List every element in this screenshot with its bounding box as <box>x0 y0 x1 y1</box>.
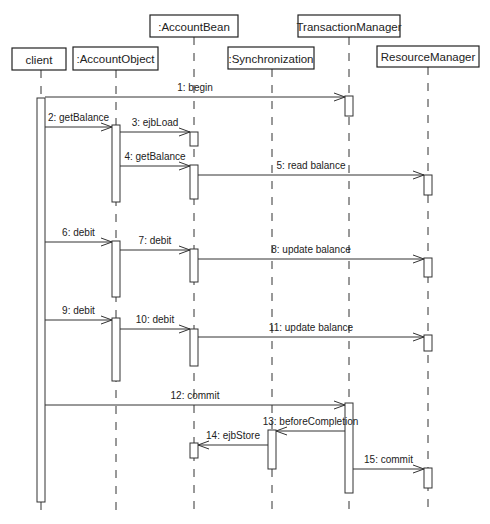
sequence-diagram: client:AccountObject:AccountBean:Synchro… <box>0 0 490 524</box>
message-5: 5: read balance <box>198 160 424 179</box>
message-label: 14: ejbStore <box>206 430 260 441</box>
message-1: 1: begin <box>45 82 345 101</box>
activation-bars <box>37 96 432 502</box>
message-label: 10: debit <box>136 314 175 325</box>
message-11: 11: update balance <box>198 322 424 341</box>
message-6: 6: debit <box>45 227 112 246</box>
participant-label: :AccountBean <box>158 21 230 33</box>
activation-bar-synchronization <box>268 430 276 469</box>
message-label: 5: read balance <box>277 160 346 171</box>
activation-bar-account-object <box>112 318 120 381</box>
message-label: 12: commit <box>171 390 220 401</box>
activation-bar-resource-manager <box>424 175 432 195</box>
participant-label: ResourceManager <box>381 51 476 63</box>
message-3: 3: ejbLoad <box>120 117 190 136</box>
message-7: 7: debit <box>120 235 190 254</box>
activation-bar-resource-manager <box>424 258 432 277</box>
message-label: 7: debit <box>139 235 172 246</box>
message-label: 4: getBalance <box>124 151 186 162</box>
message-label: 3: ejbLoad <box>132 117 179 128</box>
participant-label: TransactionManager <box>296 21 401 33</box>
activation-bar-account-object <box>112 241 120 297</box>
participant-account-bean: :AccountBean <box>150 15 238 37</box>
message-13: 13: beforeCompletion <box>263 416 359 435</box>
participants: client:AccountObject:AccountBean:Synchro… <box>12 15 479 70</box>
activation-bar-resource-manager <box>424 468 432 488</box>
participant-label: :Synchronization <box>228 53 313 65</box>
message-label: 1: begin <box>177 82 213 93</box>
participant-account-object: :AccountObject <box>73 47 158 70</box>
message-2: 2: getBalance <box>45 112 112 131</box>
activation-bar-account-bean <box>190 165 198 199</box>
activation-bar-resource-manager <box>424 335 432 351</box>
message-10: 10: debit <box>120 314 190 333</box>
message-label: 6: debit <box>62 227 95 238</box>
activation-bar-account-bean <box>190 443 198 458</box>
message-15: 15: commit <box>353 454 424 473</box>
participant-label: :AccountObject <box>77 53 156 65</box>
message-14: 14: ejbStore <box>198 430 268 449</box>
participant-resource-manager: ResourceManager <box>377 46 479 67</box>
activation-bar-account-bean <box>190 249 198 282</box>
message-12: 12: commit <box>45 390 345 409</box>
participant-client: client <box>12 48 66 70</box>
lifelines <box>41 37 428 515</box>
message-9: 9: debit <box>45 305 112 324</box>
message-label: 11: update balance <box>269 322 354 333</box>
participant-label: client <box>26 54 54 66</box>
activation-bar-account-bean <box>190 132 198 146</box>
activation-bar-account-bean <box>190 329 198 366</box>
message-label: 8: update balance <box>271 244 351 255</box>
message-label: 15: commit <box>364 454 413 465</box>
message-label: 13: beforeCompletion <box>263 416 359 427</box>
message-8: 8: update balance <box>198 244 424 263</box>
participant-synchronization: :Synchronization <box>228 47 314 69</box>
activation-bar-account-object <box>112 125 120 202</box>
message-label: 2: getBalance <box>48 112 110 123</box>
message-label: 9: debit <box>62 305 95 316</box>
activation-bar-client <box>37 98 45 502</box>
participant-transaction-manager: TransactionManager <box>296 15 401 37</box>
activation-bar-transaction-manager <box>345 96 353 116</box>
message-4: 4: getBalance <box>120 151 190 170</box>
messages: 1: begin2: getBalance3: ejbLoad4: getBal… <box>45 82 424 473</box>
